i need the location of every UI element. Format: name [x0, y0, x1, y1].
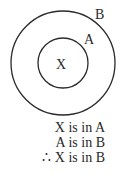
- conclusion: ∴ X is in B: [42, 150, 105, 165]
- premise-1: X is in A: [42, 120, 105, 135]
- label-x: X: [56, 58, 66, 72]
- syllogism-text: X is in A A is in B ∴ X is in B: [42, 120, 105, 165]
- premise-2: A is in B: [42, 135, 105, 150]
- label-a: A: [84, 33, 94, 47]
- label-b: B: [95, 8, 104, 22]
